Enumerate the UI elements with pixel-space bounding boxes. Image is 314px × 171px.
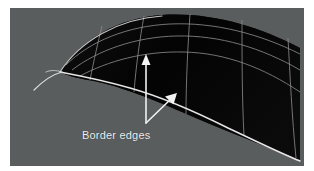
surface-canvas <box>10 8 304 166</box>
figure-panel: Border edges <box>10 8 304 166</box>
border-edges-label: Border edges <box>82 129 150 141</box>
tail-whisker-group <box>34 71 62 91</box>
tail-whisker-hook <box>46 71 62 73</box>
tail-whisker <box>34 72 62 90</box>
figure-root: Border edges <box>0 0 314 171</box>
